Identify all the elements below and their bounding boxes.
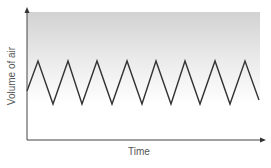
y-axis-label: Volume of air [6, 46, 17, 105]
x-axis-arrow-icon [260, 138, 266, 143]
y-axis-arrow-icon [25, 7, 30, 13]
x-axis-label: Time [128, 146, 150, 157]
breathing-volume-chart: Time Volume of air [0, 0, 271, 168]
